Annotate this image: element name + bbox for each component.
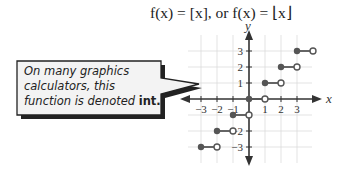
callout-main-text: On many graphics calculators, this funct… [24, 64, 139, 108]
y-tick-label: 1 [238, 77, 244, 89]
y-tick-label: 2 [238, 61, 244, 73]
y-tick-label: 3 [238, 45, 244, 57]
y-tick-label: −3 [231, 141, 243, 153]
x-tick-label: 1 [262, 103, 268, 115]
x-tick-label: 3 [294, 103, 300, 115]
callout-text: On many graphics calculators, this funct… [24, 64, 164, 109]
y-axis-label: y [243, 18, 251, 33]
callout-bold-text: int. [139, 94, 161, 108]
x-axis-label: x [325, 91, 332, 106]
x-tick-label: −3 [195, 103, 207, 115]
x-tick-label: 2 [278, 103, 284, 115]
x-tick-label: −2 [211, 103, 223, 115]
